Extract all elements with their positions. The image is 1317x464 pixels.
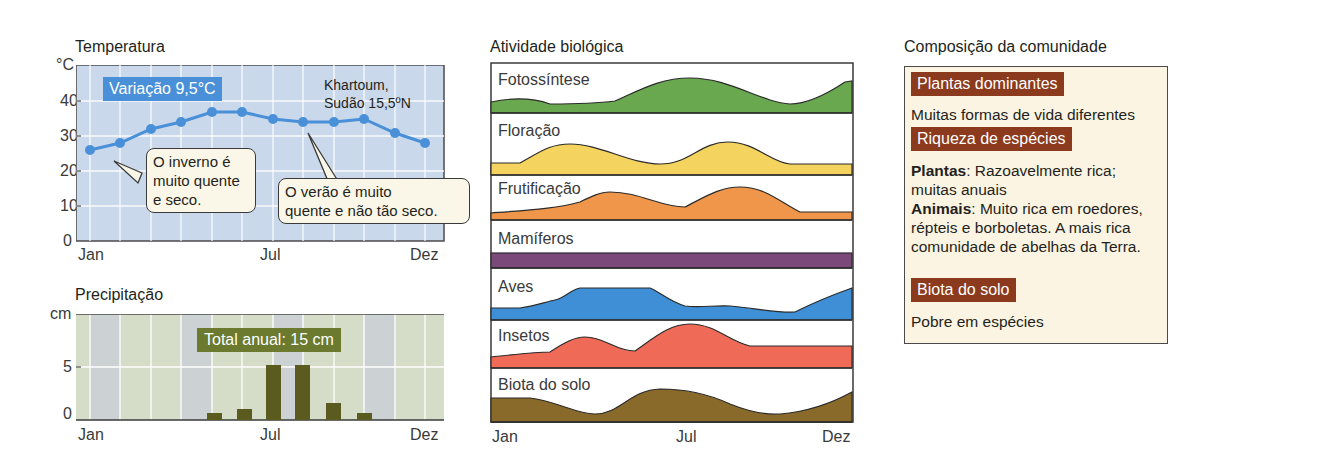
location-country: Sudão 15,5ºN [324, 94, 411, 112]
location-city: Khartoum, [324, 76, 411, 94]
winter-callout-line: e seco. [153, 190, 249, 209]
activity-x-jul: Jul [676, 428, 696, 446]
section-heading-dominant-plants: Plantas dominantes [911, 72, 1064, 96]
temp-x-jan: Jan [78, 246, 104, 264]
precip-tick-5: 5 [63, 358, 72, 376]
precip-x-jan: Jan [78, 426, 104, 444]
activity-row-soil-biota: Biota do solo [498, 376, 591, 394]
precipitation-total-badge: Total anual: 15 cm [197, 328, 341, 352]
community-panel: Plantas dominantes Muitas formas de vida… [904, 66, 1168, 344]
summer-callout: O verão é muito quente e não tão seco. [278, 178, 470, 224]
location-label: Khartoum, Sudão 15,5ºN [324, 76, 411, 112]
temp-x-jul: Jul [260, 246, 280, 264]
precip-x-dez: Dez [410, 426, 438, 444]
summer-callout-line: O verão é muito [285, 182, 463, 201]
temperature-range-badge: Variação 9,5°C [103, 77, 222, 101]
activity-row-flowering: Floração [498, 122, 560, 140]
community-title: Composição da comunidade [904, 38, 1107, 56]
species-richness-plants: Plantas: Razoavelmente rica; muitas anua… [911, 161, 1163, 199]
section-heading-species-richness: Riqueza de espécies [911, 127, 1072, 151]
winter-callout-line: O inverno é [153, 152, 249, 171]
activity-x-jan: Jan [492, 428, 518, 446]
precip-tick-0: 0 [63, 405, 72, 423]
summer-callout-line: quente e não tão seco. [285, 201, 463, 220]
plants-label: Plantas [911, 162, 966, 179]
temperature-title: Temperatura [75, 38, 165, 56]
winter-callout-line: muito quente [153, 171, 249, 190]
temp-tick-0: 0 [63, 232, 72, 250]
precipitation-unit: cm [50, 305, 71, 323]
temp-x-dez: Dez [410, 246, 438, 264]
activity-row-mammals: Mamíferos [498, 230, 574, 248]
section-heading-soil-biota: Biota do solo [911, 278, 1016, 302]
activity-x-dez: Dez [822, 428, 850, 446]
species-richness-animals: Animais: Muito rica em roedores, répteis… [911, 199, 1163, 256]
soil-biota-text: Pobre em espécies [911, 312, 1163, 331]
dominant-plants-text: Muitas formas de vida diferentes [911, 105, 1163, 124]
activity-row-photosynthesis: Fotossíntese [498, 71, 590, 89]
animals-label: Animais [911, 200, 971, 217]
activity-row-insects: Insetos [498, 327, 550, 345]
precip-x-jul: Jul [260, 426, 280, 444]
activity-row-fruiting: Frutificação [498, 180, 581, 198]
winter-callout: O inverno é muito quente e seco. [146, 148, 256, 213]
temperature-unit: °C [56, 56, 74, 74]
precipitation-title: Precipitação [75, 286, 163, 304]
activity-row-birds: Aves [498, 278, 533, 296]
activity-title: Atividade biológica [490, 38, 623, 56]
